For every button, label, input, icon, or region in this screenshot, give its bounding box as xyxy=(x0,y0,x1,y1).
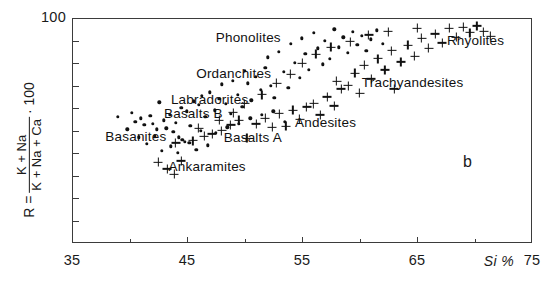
data-point-cross xyxy=(188,136,197,145)
x-tick-major xyxy=(302,237,303,243)
x-tick-label: 55 xyxy=(282,252,322,268)
data-point-dot xyxy=(116,115,119,118)
data-point-dot xyxy=(346,51,349,54)
x-tick-minor xyxy=(245,239,246,243)
data-point-dot xyxy=(139,116,142,119)
panel-letter: b xyxy=(463,153,472,171)
data-point-dot xyxy=(365,49,368,52)
y-axis-label-numerator: K + Na xyxy=(15,133,29,177)
data-point-dot xyxy=(312,31,315,34)
field-label: Ordanchites xyxy=(196,66,271,81)
data-point-cross xyxy=(229,108,238,117)
data-point-cross xyxy=(288,106,297,115)
data-point-dot xyxy=(307,68,310,71)
data-point-cross xyxy=(396,57,405,66)
y-tick xyxy=(72,108,79,109)
data-point-dot xyxy=(323,39,326,42)
data-point-dot xyxy=(328,57,331,60)
data-point-dot xyxy=(176,151,179,154)
data-point-dot xyxy=(266,56,269,59)
y-tick xyxy=(72,198,79,199)
field-label: Basalts A xyxy=(224,130,282,145)
data-point-cross xyxy=(332,77,341,86)
data-point-dot xyxy=(282,70,285,73)
data-point-cross xyxy=(403,41,412,50)
data-point-dot xyxy=(220,83,223,86)
data-point-dot xyxy=(158,101,161,104)
data-point-cross xyxy=(171,138,180,147)
y-axis-label-denominator: K + Na + Ca xyxy=(29,117,44,193)
field-label: Trachyandesites xyxy=(362,75,464,90)
data-point-dot xyxy=(277,50,280,53)
data-point-dot xyxy=(183,140,186,143)
data-point-cross xyxy=(344,81,353,90)
data-point-cross xyxy=(311,50,320,59)
y-tick xyxy=(72,131,79,132)
data-point-cross xyxy=(309,99,318,108)
y-tick xyxy=(72,176,79,177)
figure-panel: R = K + Na K + Na + Ca · 100 PhonolitesO… xyxy=(0,0,548,297)
data-point-cross xyxy=(364,30,373,39)
data-point-cross xyxy=(346,37,355,46)
data-point-dot xyxy=(174,121,177,124)
x-tick-label: 35 xyxy=(52,252,92,268)
data-point-cross xyxy=(208,129,217,138)
y-tick-label: 100 xyxy=(41,9,66,25)
data-point-dot xyxy=(130,111,133,114)
data-point-cross xyxy=(387,46,396,55)
data-point-cross xyxy=(272,79,281,88)
data-point-dot xyxy=(332,28,335,31)
data-point-dot xyxy=(289,42,292,45)
data-point-dot xyxy=(171,130,174,133)
data-point-dot xyxy=(342,35,345,38)
data-point-dot xyxy=(143,123,146,126)
y-tick xyxy=(72,221,79,222)
data-point-cross xyxy=(384,27,393,36)
field-label: Ankaramites xyxy=(169,159,246,174)
x-tick-major xyxy=(417,237,418,243)
data-point-dot xyxy=(134,120,137,123)
data-point-cross xyxy=(261,114,270,123)
y-tick xyxy=(72,63,79,64)
data-point-cross xyxy=(154,158,163,167)
data-point-dot xyxy=(160,149,163,152)
field-label: Rhyolites xyxy=(447,33,504,48)
y-axis-label: R = K + Na K + Na + Ca · 100 xyxy=(0,60,62,240)
field-label: Basanites xyxy=(105,129,166,144)
field-label: Phonolites xyxy=(216,30,281,45)
data-point-cross xyxy=(380,65,389,74)
y-axis-label-multiplier: · 100 xyxy=(21,82,37,114)
x-tick-label: 45 xyxy=(167,252,207,268)
x-tick-major xyxy=(187,237,188,243)
data-point-cross xyxy=(194,124,203,133)
y-tick xyxy=(72,41,79,42)
data-point-dot xyxy=(321,62,324,65)
x-tick-minor xyxy=(130,239,131,243)
x-tick-minor xyxy=(475,239,476,243)
data-point-cross xyxy=(360,61,369,70)
x-tick-label: 65 xyxy=(397,252,437,268)
data-point-dot xyxy=(298,76,301,79)
x-tick-minor xyxy=(360,239,361,243)
data-point-dot xyxy=(286,86,289,89)
data-point-cross xyxy=(417,34,426,43)
data-point-cross xyxy=(286,70,295,79)
data-point-dot xyxy=(206,143,209,146)
x-tick-label: 75 xyxy=(512,252,548,268)
data-point-cross xyxy=(281,122,290,131)
y-tick xyxy=(72,86,79,87)
data-point-cross xyxy=(252,119,261,128)
data-point-cross xyxy=(424,44,433,53)
data-point-dot xyxy=(337,46,340,49)
data-point-dot xyxy=(355,43,358,46)
data-point-cross xyxy=(350,69,359,78)
data-point-dot xyxy=(381,42,384,45)
data-point-dot xyxy=(151,122,154,125)
data-point-cross xyxy=(326,43,335,52)
data-point-dot xyxy=(300,37,303,40)
plot-area: PhonolitesOrdanchitesLabradoritesBasalts… xyxy=(72,18,532,243)
data-point-cross xyxy=(413,24,422,33)
data-point-dot xyxy=(375,29,378,32)
y-axis-label-fraction: K + Na K + Na + Ca xyxy=(15,117,43,193)
data-point-cross xyxy=(438,38,447,47)
